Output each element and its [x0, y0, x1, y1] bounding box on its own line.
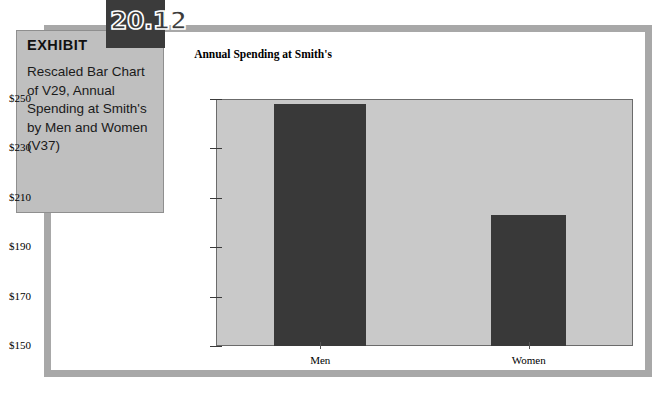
y-axis-tick-mark [210, 297, 222, 298]
exhibit-number: 20.12 [110, 6, 187, 35]
y-axis-tick-mark [210, 148, 222, 149]
frame-right-rule [645, 25, 652, 377]
bar-men [274, 104, 366, 346]
exhibit-figure: EXHIBIT Rescaled Bar Chart of V29, Annua… [0, 0, 667, 397]
x-axis-tick-mark [320, 342, 321, 349]
x-axis-tick-mark [529, 342, 530, 349]
frame-bottom-rule [44, 370, 652, 377]
y-axis-tick-mark [210, 346, 222, 347]
bar-women [491, 215, 566, 346]
y-axis-tick-label: $170 [0, 290, 31, 302]
y-axis-tick-mark [210, 99, 222, 100]
y-axis-tick-label: $250 [0, 92, 31, 104]
x-axis-label-women: Women [479, 354, 579, 366]
y-axis-tick-label: $150 [0, 339, 31, 351]
y-axis-tick-label: $190 [0, 240, 31, 252]
chart-title: Annual Spending at Smith's [183, 48, 343, 61]
exhibit-label: EXHIBIT [27, 37, 88, 53]
y-axis-tick-label: $210 [0, 191, 31, 203]
y-axis-tick-label: $230 [0, 141, 31, 153]
exhibit-description: Rescaled Bar Chart of V29, Annual Spendi… [27, 63, 151, 156]
y-axis-tick-mark [210, 247, 222, 248]
y-axis-tick-mark [210, 198, 222, 199]
exhibit-number-tab: 20.12 [106, 0, 165, 48]
x-axis-label-men: Men [270, 354, 370, 366]
